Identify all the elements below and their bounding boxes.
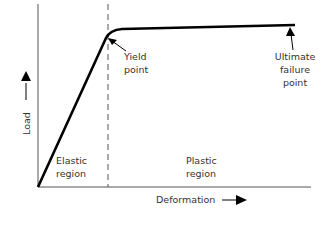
yield-point-label: Yield point xyxy=(124,50,148,76)
x-axis-label: Deformation xyxy=(156,193,215,206)
yield-label-line-2: point xyxy=(124,63,148,76)
y-axis-label: Load xyxy=(20,108,33,140)
plastic-region-label: Plastic region xyxy=(186,154,217,180)
ultimate-label-line-3: point xyxy=(272,76,318,89)
ultimate-arrow-icon xyxy=(286,27,295,50)
plastic-label-line-2: region xyxy=(186,167,217,180)
yield-label-line-1: Yield xyxy=(124,50,148,63)
plastic-label-line-1: Plastic xyxy=(186,154,217,167)
load-arrow-icon xyxy=(21,71,31,100)
deformation-arrow-icon xyxy=(222,195,247,205)
ultimate-label-line-2: failure xyxy=(272,63,318,76)
ultimate-failure-point-label: Ultimate failure point xyxy=(272,50,318,89)
elastic-label-line-2: region xyxy=(56,167,87,180)
elastic-label-line-1: Elastic xyxy=(56,154,87,167)
ultimate-label-line-1: Ultimate xyxy=(272,50,318,63)
elastic-region-label: Elastic region xyxy=(56,154,87,180)
